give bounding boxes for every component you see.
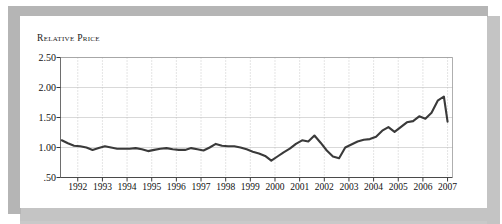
y-tick-label: 1.50 <box>22 112 56 123</box>
y-tick-label: .50 <box>22 172 56 183</box>
y-tick-label: 1.00 <box>22 142 56 153</box>
horizontal-gridlines <box>61 58 453 178</box>
series-line-relative-price <box>62 97 448 161</box>
y-axis-ticks <box>57 58 61 178</box>
x-axis-ticks <box>78 178 448 182</box>
x-tick-label: 2007 <box>431 182 465 192</box>
y-tick-label: 2.50 <box>22 52 56 63</box>
y-tick-label: 2.00 <box>22 82 56 93</box>
screenshot-root: Relative Price 2.502.001.501.00.50 19921… <box>0 0 502 224</box>
